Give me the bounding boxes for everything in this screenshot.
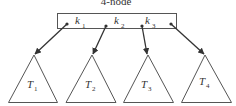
svg-text:1: 1: [82, 22, 86, 30]
subtree-3: T 3: [124, 55, 174, 103]
diagram-title: 4-node: [101, 0, 132, 7]
svg-text:T: T: [27, 78, 34, 90]
arrow-2: [93, 26, 106, 54]
arrow-4: [171, 24, 204, 54]
svg-text:T: T: [141, 78, 148, 90]
subtree-1: T 1: [9, 55, 58, 103]
svg-text:3: 3: [152, 22, 156, 30]
svg-text:1: 1: [34, 85, 38, 93]
svg-text:T: T: [199, 75, 206, 87]
svg-text:T: T: [85, 78, 92, 90]
svg-text:3: 3: [148, 85, 152, 93]
svg-text:2: 2: [92, 85, 96, 93]
arrow-1: [35, 24, 67, 54]
svg-text:4: 4: [206, 82, 210, 90]
subtree-2: T 2: [66, 55, 116, 103]
svg-text:2: 2: [121, 22, 125, 30]
arrow-3: [142, 26, 147, 54]
subtree-4: T 4: [182, 55, 232, 103]
four-node-diagram: 4-node k 1 k 2 k 3 T 1 T 2 T 3 T: [0, 0, 236, 106]
